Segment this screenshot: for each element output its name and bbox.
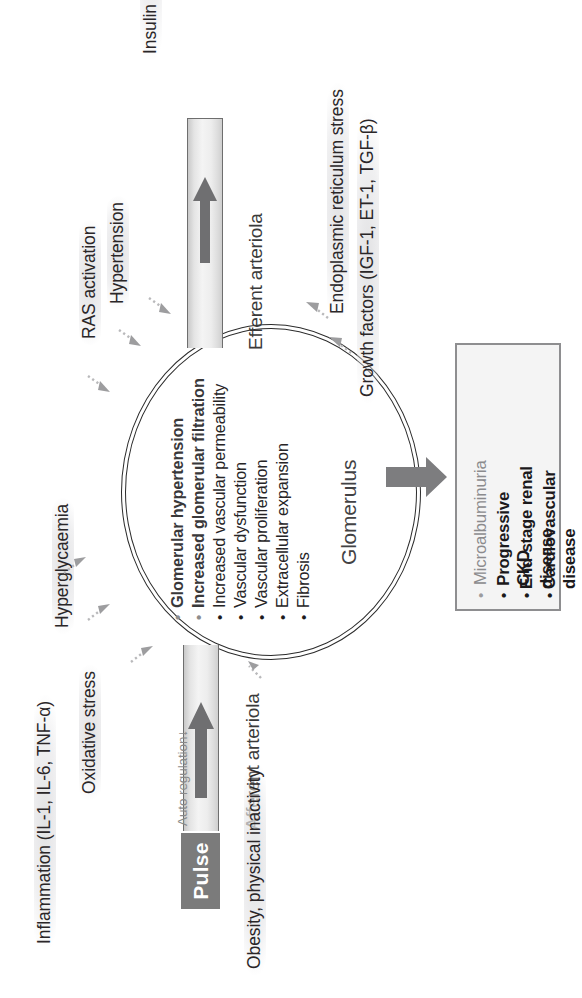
list-item: • Increased glomerular filtration	[189, 378, 209, 620]
outcomes-list: • Microalbuminuria • Progressive CKD • E…	[471, 460, 563, 598]
pulse-label: Pulse	[189, 842, 213, 900]
list-item-label: Vascular dysfunction	[231, 462, 250, 608]
dotted-arrow-icon	[86, 602, 116, 622]
risk-factor-insulin-resistance: Insulin resistance/hyperinsulinemia	[140, 0, 162, 60]
dotted-arrow-icon	[86, 374, 116, 394]
list-item: • Progressive CKD	[494, 460, 516, 598]
glomerulus-label: Glomerulus	[338, 460, 359, 565]
dotted-arrow-icon	[117, 328, 147, 348]
glomerulus-findings-list: • Glomerular hypertension • Increased gl…	[168, 378, 315, 620]
list-item: • Vascular dysfunction	[231, 378, 251, 620]
list-item-label: Fibrosis	[294, 552, 313, 608]
bullet-icon: •	[212, 608, 227, 620]
list-item: • Fibrosis	[294, 378, 314, 620]
risk-factor-growth-factors: Growth factors (IGF-1, ET-1, TGF-β)	[357, 113, 379, 404]
outcomes-box: • Microalbuminuria • Progressive CKD • E…	[455, 343, 561, 611]
bullet-icon: •	[519, 589, 534, 598]
bullet-icon: •	[170, 608, 185, 620]
list-item: • Cardiovascular disease	[540, 460, 562, 598]
list-item-label: Increased vascular permeability	[210, 384, 229, 608]
bullet-icon: •	[254, 608, 269, 620]
pulse-box: Pulse	[181, 833, 220, 909]
list-item: • Glomerular hypertension	[168, 378, 188, 620]
risk-factor-oxidative-stress: Oxidative stress	[79, 665, 101, 800]
bullet-icon: •	[496, 586, 511, 598]
bullet-icon: •	[233, 608, 248, 620]
list-item-label: Glomerular hypertension	[168, 418, 187, 608]
afferent-flow-arrow-icon	[187, 700, 215, 800]
list-item: • Vascular proliferation	[252, 378, 272, 620]
list-item: • Extracellular expansion	[273, 378, 293, 620]
bullet-icon: •	[191, 608, 206, 620]
diagram-canvas: Pulse Efferent arteriola Afferent arteri…	[0, 0, 582, 998]
dotted-arrow-icon	[147, 296, 177, 316]
list-item-label: Cardiovascular disease	[540, 460, 580, 588]
list-item: • Microalbuminuria	[471, 460, 493, 598]
dotted-arrow-icon	[247, 660, 277, 680]
list-item-label: Extracellular expansion	[273, 443, 292, 608]
list-item-label: Increased glomerular filtration	[189, 378, 208, 608]
list-item: • Increased vascular permeability	[210, 378, 230, 620]
risk-factor-obesity-inactivity: Obesity, physical inactivity	[244, 763, 266, 975]
dotted-arrow-icon	[129, 644, 159, 664]
efferent-flow-arrow-icon	[192, 175, 218, 265]
list-item: • End-stage renal disease	[517, 460, 539, 598]
risk-factor-er-stress: Endoplasmic reticulum stress	[327, 83, 349, 320]
risk-factor-inflammation: Inflammation (IL-1, IL-6, TNF-α)	[34, 695, 56, 950]
bullet-icon: •	[473, 585, 488, 598]
outcome-arrow-icon	[386, 455, 448, 499]
bullet-icon: •	[296, 608, 311, 620]
risk-factor-ras-activation: RAS activation	[79, 220, 101, 345]
list-item-label: Vascular proliferation	[252, 460, 271, 608]
risk-factor-hypertension: Hypertension	[107, 196, 129, 310]
bullet-icon: •	[275, 608, 290, 620]
auto-regulation-label: Auto regulation↓	[176, 730, 190, 826]
list-item-label: Microalbuminuria	[471, 460, 491, 585]
bullet-icon: •	[542, 589, 557, 598]
efferent-arteriola-label: Efferent arteriola	[246, 213, 265, 350]
risk-factor-hyperglycaemia: Hyperglycaemia	[52, 498, 74, 634]
